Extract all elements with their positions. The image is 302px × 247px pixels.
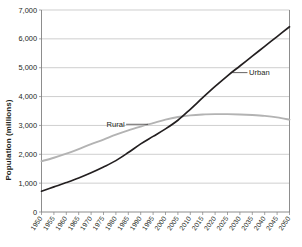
x-tick-label: 1985 [116,215,131,232]
series-line-urban [42,27,290,191]
x-tick-label: 1995 [141,215,156,232]
x-tick-label: 2045 [265,215,280,232]
population-line-chart: 01,0002,0003,0004,0005,0006,0007,000 195… [0,0,302,247]
x-tick-label: 2025 [215,215,230,232]
x-tick-label: 1955 [42,215,57,232]
x-tick-label: 2035 [240,215,255,232]
x-tick-label: 1950 [29,215,44,232]
y-tick-label: 3,000 [19,121,38,130]
y-tick-label: 6,000 [19,34,38,43]
y-tick-label: 0 [33,208,37,217]
y-tick-label: 7,000 [19,6,38,15]
gridlines [42,10,290,183]
series-annotations: UrbanRural [106,68,269,129]
x-tick-label: 2000 [153,215,168,232]
x-tick-label: 2050 [277,215,292,232]
chart-canvas: 01,0002,0003,0004,0005,0006,0007,000 195… [0,0,302,247]
x-tick-label: 2020 [203,215,218,232]
y-tick-label: 5,000 [19,63,38,72]
series-label-urban: Urban [249,68,270,77]
x-tick-labels: 1950195519601965197019751980198519901995… [29,215,292,232]
x-tick-label: 2040 [252,215,267,232]
y-tick-label: 1,000 [19,179,38,188]
x-tick-label: 2015 [190,215,205,232]
series-label-rural: Rural [106,120,124,129]
x-tick-label: 1965 [66,215,81,232]
x-tick-label: 1975 [91,215,106,232]
x-tick-label: 2005 [166,215,181,232]
x-tick-label: 1960 [54,215,69,232]
y-tick-label: 4,000 [19,92,38,101]
x-tick-label: 2030 [228,215,243,232]
y-tick-label: 2,000 [19,150,38,159]
x-tick-label: 1990 [128,215,143,232]
y-axis-title: Population (millions) [4,99,13,180]
y-tick-labels: 01,0002,0003,0004,0005,0006,0007,000 [19,6,38,217]
x-tick-label: 1970 [79,215,94,232]
x-tick-label: 1980 [104,215,119,232]
x-tick-label: 2010 [178,215,193,232]
